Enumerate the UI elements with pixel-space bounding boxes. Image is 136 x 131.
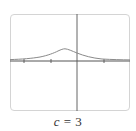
plot-caption: c = 3 bbox=[0, 114, 136, 130]
function-plot bbox=[0, 0, 136, 131]
function-curve bbox=[10, 49, 130, 60]
caption-equals: = bbox=[60, 114, 75, 129]
caption-value: 3 bbox=[75, 114, 82, 129]
